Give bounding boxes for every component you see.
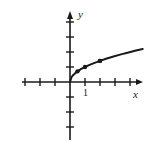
curve-point-two: [98, 59, 102, 63]
y-axis-label: y: [78, 9, 83, 20]
x-axis-label: x: [133, 89, 138, 100]
y-axis-arrowhead: [67, 11, 73, 19]
curve-point-half: [83, 65, 87, 69]
coordinate-plane-svg: [0, 0, 149, 142]
curve-point-origin: [75, 69, 79, 73]
x-tick-label-1: 1: [83, 88, 88, 98]
graph-figure: y x 1: [0, 0, 149, 142]
x-axis-arrowhead: [136, 79, 143, 85]
function-curve: [70, 49, 143, 82]
